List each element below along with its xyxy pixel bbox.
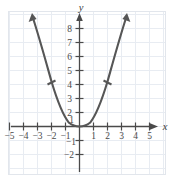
x-tick-label: −2 xyxy=(46,131,56,141)
parabola-graph-figure: −5 −4 −3 −2 −1 1 2 3 4 5 8 7 6 5 4 3 2 1… xyxy=(0,0,173,186)
x-tick-label: −3 xyxy=(32,131,42,141)
y-tick-label: 4 xyxy=(67,80,72,90)
y-axis-label: y xyxy=(78,2,84,13)
y-tick-label: −1 xyxy=(66,137,76,147)
x-tick-label: 5 xyxy=(147,131,152,141)
x-tick-label: −5 xyxy=(4,131,14,141)
x-axis-label: x xyxy=(162,121,168,132)
y-tick-label: 6 xyxy=(67,52,72,62)
y-tick-label: −2 xyxy=(64,150,74,160)
y-tick-label: 7 xyxy=(67,38,72,48)
x-tick-label: 1 xyxy=(91,131,96,141)
x-tick-label: 2 xyxy=(105,131,110,141)
coordinate-plane-svg: −5 −4 −3 −2 −1 1 2 3 4 5 8 7 6 5 4 3 2 1… xyxy=(0,0,173,186)
y-tick-label: 5 xyxy=(67,66,72,76)
x-tick-label: 4 xyxy=(133,131,138,141)
y-tick-label: 8 xyxy=(67,24,72,34)
y-tick-label: 3 xyxy=(67,94,72,104)
x-tick-label: 3 xyxy=(119,131,124,141)
x-tick-label: −4 xyxy=(18,131,28,141)
plot-background xyxy=(9,12,166,175)
